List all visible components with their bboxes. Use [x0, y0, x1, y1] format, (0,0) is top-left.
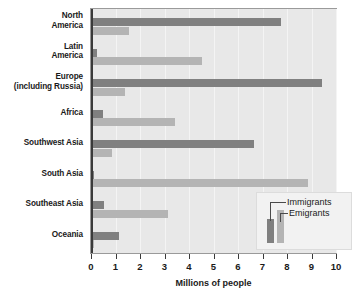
bar-emigrants-3: [92, 118, 175, 126]
x-tick-label-1: 1: [104, 261, 128, 272]
bar-immigrants-3: [92, 110, 103, 118]
x-tick-5: [214, 254, 215, 259]
category-label-7: Oceania: [0, 230, 83, 240]
category-label-4: Southwest Asia: [0, 138, 83, 148]
x-tick-1: [116, 254, 117, 259]
x-tick-10: [336, 254, 337, 259]
x-tick-2: [140, 254, 141, 259]
bar-immigrants-2: [92, 79, 322, 87]
category-label-1: LatinAmerica: [0, 42, 83, 61]
x-axis-tick-labels: 012345678910: [90, 261, 337, 275]
legend-leader-line-immigrants-vertical: [270, 202, 271, 221]
x-tick-6: [238, 254, 239, 259]
chart-legend: Immigrants Emigrants: [256, 192, 352, 250]
value-axis-spine: [91, 9, 93, 253]
x-tick-8: [287, 254, 288, 259]
bar-emigrants-5: [92, 179, 308, 187]
legend-swatch-immigrants: [267, 219, 274, 243]
x-tick-label-4: 4: [177, 261, 201, 272]
legend-label-immigrants: Immigrants: [287, 197, 332, 207]
legend-leader-line-immigrants-horizontal: [270, 202, 286, 203]
legend-label-emigrants: Emigrants: [289, 208, 330, 218]
x-tick-9: [312, 254, 313, 259]
bar-emigrants-6: [92, 210, 168, 218]
bar-immigrants-0: [92, 18, 281, 26]
x-tick-0: [91, 254, 92, 259]
bar-emigrants-2: [92, 88, 125, 96]
bar-emigrants-4: [92, 149, 112, 157]
bar-emigrants-1: [92, 57, 202, 65]
bar-emigrants-0: [92, 27, 129, 35]
bar-immigrants-7: [92, 232, 119, 240]
x-tick-label-0: 0: [79, 261, 103, 272]
category-label-3: Africa: [0, 108, 83, 118]
category-label-2: Europe(including Russia): [0, 72, 83, 91]
bar-chart-figure: NorthAmericaLatinAmericaEurope(including…: [0, 0, 354, 297]
bar-immigrants-6: [92, 201, 104, 209]
category-label-0: NorthAmerica: [0, 11, 83, 30]
x-tick-label-3: 3: [153, 261, 177, 272]
legend-leader-line-emigrants-vertical: [280, 213, 281, 222]
category-axis-labels: NorthAmericaLatinAmericaEurope(including…: [0, 8, 88, 254]
x-tick-label-2: 2: [128, 261, 152, 272]
x-tick-4: [189, 254, 190, 259]
category-label-5: South Asia: [0, 169, 83, 179]
x-tick-label-9: 9: [300, 261, 324, 272]
category-label-6: Southeast Asia: [0, 199, 83, 209]
x-tick-label-8: 8: [275, 261, 299, 272]
x-tick-7: [263, 254, 264, 259]
x-tick-3: [165, 254, 166, 259]
x-tick-label-6: 6: [226, 261, 250, 272]
x-tick-label-10: 10: [324, 261, 348, 272]
legend-leader-line-emigrants-horizontal: [280, 213, 288, 214]
x-tick-label-5: 5: [202, 261, 226, 272]
bar-immigrants-4: [92, 140, 254, 148]
x-tick-label-7: 7: [251, 261, 275, 272]
x-axis-title: Millions of people: [90, 278, 337, 288]
